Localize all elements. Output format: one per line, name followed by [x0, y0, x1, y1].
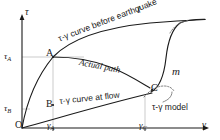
point-label-a: A: [46, 48, 53, 58]
branch-label-m: m: [172, 66, 180, 77]
y-tick-label-tau-b: τB: [4, 104, 11, 114]
x-tick-label-gamma-c: γC: [139, 121, 147, 131]
origin-label: O: [15, 120, 22, 130]
y-tick-tau-a-sub: A: [7, 55, 11, 62]
point-label-c: C: [151, 83, 158, 93]
leader-tau-gamma-model: [163, 92, 172, 102]
y-tick-label-tau-a: τA: [4, 52, 11, 62]
x-tick-label-gamma-a: γA: [47, 121, 55, 131]
x-tick-gamma-c-sub: C: [143, 124, 147, 131]
y-tick-tau-b-sub: B: [7, 107, 11, 114]
point-label-b: B: [46, 99, 53, 109]
x-axis-label: γ: [202, 120, 206, 130]
x-tick-gamma-a-sub: A: [51, 124, 55, 131]
tau-gamma-figure: τ γ O τA τB γA γC A B C l m τ-γ curve be…: [0, 0, 220, 140]
curve-branch-m: [151, 19, 205, 92]
y-axis-label: τ: [25, 7, 29, 17]
y-axis-arrow: [20, 14, 25, 20]
annotation-tau-gamma-model: τ-γ model: [152, 103, 188, 112]
